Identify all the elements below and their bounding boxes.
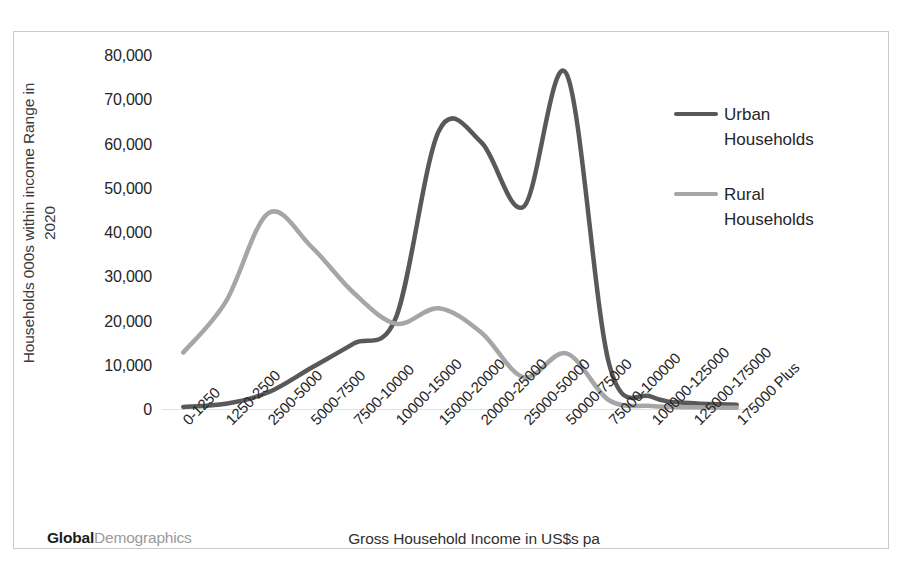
y-axis-title-line2: 2020: [39, 43, 60, 403]
legend-label-urban-line1: Urban: [724, 105, 770, 124]
y-tick-label: 30,000: [76, 268, 152, 286]
chart-legend: Urban Households Rural Households: [672, 102, 877, 262]
x-axis-tick-labels: 0-12501250-25002500-50005000-75007500-10…: [162, 412, 762, 532]
series-line-urban: [183, 71, 736, 407]
brand-watermark: GlobalDemographics: [47, 529, 192, 547]
y-tick-label: 50,000: [76, 180, 152, 198]
y-tick-label: 70,000: [76, 91, 152, 109]
brand-name-light: Demographics: [94, 529, 192, 546]
y-tick-label: 60,000: [76, 136, 152, 154]
y-axis-title-line1: Households 000s within income Range in: [18, 43, 39, 403]
legend-label-urban-line2: Households: [724, 130, 814, 149]
y-tick-label: 10,000: [76, 357, 152, 375]
y-tick-label: 40,000: [76, 224, 152, 242]
brand-name-strong: Global: [47, 529, 94, 546]
y-axis-tick-labels: 80,00070,00060,00050,00040,00030,00020,0…: [76, 56, 152, 410]
series-paths: [183, 71, 736, 408]
legend-item-rural[interactable]: Rural Households: [672, 182, 877, 232]
legend-item-urban[interactable]: Urban Households: [672, 102, 877, 152]
legend-swatch-urban: [674, 112, 718, 116]
y-tick-label: 80,000: [76, 47, 152, 65]
chart-container: Households 000s within income Range in 2…: [13, 31, 889, 549]
x-axis-title: Gross Household Income in US$s pa: [264, 530, 684, 548]
y-axis-title: Households 000s within income Range in 2…: [18, 43, 60, 403]
legend-label-rural-line2: Households: [724, 210, 814, 229]
y-tick-label: 0: [76, 401, 152, 419]
legend-label-rural-line1: Rural: [724, 185, 765, 204]
legend-swatch-rural: [674, 192, 718, 196]
y-tick-label: 20,000: [76, 313, 152, 331]
